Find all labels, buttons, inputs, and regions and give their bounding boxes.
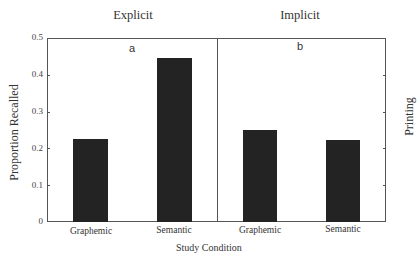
bar-implicit-semantic	[326, 140, 360, 222]
bar-explicit-graphemic	[73, 139, 108, 222]
xcat-explicit-graphemic: Graphemic	[56, 226, 126, 236]
ytick-left-0.2	[47, 148, 50, 149]
xcat-implicit-semantic: Semantic	[308, 224, 378, 234]
ytick-left-0.3	[47, 112, 50, 113]
ytick-right-0.2	[383, 148, 386, 149]
ytick-label-0.2: 0.2	[21, 143, 43, 153]
ytick-left-0.1	[47, 185, 50, 186]
x-axis-label: Study Condition	[176, 242, 242, 253]
ytick-label-0.4: 0.4	[21, 69, 43, 79]
panel-title-implicit: Implicit	[240, 8, 360, 23]
xcat-implicit-graphemic: Graphemic	[225, 225, 295, 235]
ytick-right-0.4	[383, 75, 386, 76]
panel-divider	[217, 38, 218, 222]
xcat-explicit-semantic: Semantic	[139, 225, 209, 235]
panel-title-explicit: Explicit	[73, 8, 193, 23]
ytick-right-0.1	[383, 185, 386, 186]
panel-letter-a: a	[122, 42, 142, 54]
ytick-label-0: 0	[21, 216, 43, 226]
bar-explicit-semantic	[157, 58, 192, 222]
panel-letter-b: b	[290, 40, 310, 52]
ytick-right-0.3	[383, 112, 386, 113]
bar-implicit-graphemic	[243, 130, 277, 222]
right-axis-label: Printing	[402, 87, 417, 147]
ytick-left-0.4	[47, 75, 50, 76]
y-axis-label: Proportion Recalled	[7, 78, 22, 188]
ytick-label-0.1: 0.1	[21, 180, 43, 190]
ytick-label-0.5: 0.5	[21, 32, 43, 42]
ytick-label-0.3: 0.3	[21, 106, 43, 116]
